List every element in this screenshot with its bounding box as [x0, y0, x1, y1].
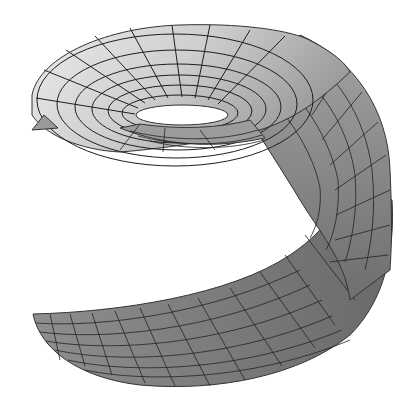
center-hole [136, 105, 228, 125]
helicoid-svg [0, 0, 411, 406]
surface-figure [0, 0, 411, 406]
